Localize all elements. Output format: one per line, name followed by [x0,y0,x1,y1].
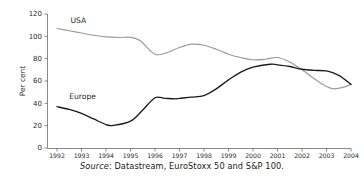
y-tick-label-40: 40 [33,100,42,108]
x-tick-label-1996: 1996 [147,152,163,159]
y-tick-label-120: 120 [29,10,42,18]
y-tick-label-100: 100 [29,33,42,41]
source-text: : Datastream, EuroStoxx 50 and S&P 100. [109,161,284,171]
x-tick-label-1997: 1997 [172,152,188,159]
x-tick-label-2000: 2000 [245,152,261,159]
y-tick-label-20: 20 [33,122,42,130]
x-tick-label-1993: 1993 [74,152,90,159]
y-tick-label-60: 60 [33,77,42,85]
x-tick-label-2002: 2002 [294,152,310,159]
y-tick-label-80: 80 [33,55,42,63]
series-label-europe: Europe [69,92,96,101]
x-tick-label-1994: 1994 [98,152,114,159]
y-tick-label-0: 0 [38,144,42,152]
y-axis: 0 20 40 60 80 100 120 Per cent [18,10,48,152]
x-axis: 1992 1993 1994 1995 1996 1997 1998 1999 … [48,149,359,159]
chart-figure: 0 20 40 60 80 100 120 Per cent [0,0,364,183]
source-word: Source [80,161,109,171]
x-tick-label-2001: 2001 [270,152,286,159]
line-chart: 0 20 40 60 80 100 120 Per cent [0,0,364,183]
source-caption: Source: Datastream, EuroStoxx 50 and S&P… [0,161,364,171]
x-tick-label-1992: 1992 [49,152,65,159]
y-axis-title: Per cent [18,66,27,96]
series-label-usa: USA [70,16,87,25]
x-tick-label-2004: 2004 [343,152,359,159]
y-axis-ticks [45,14,48,148]
x-tick-label-1998: 1998 [196,152,212,159]
x-tick-label-1999: 1999 [221,152,237,159]
series-line-usa [57,29,351,89]
x-tick-label-1995: 1995 [123,152,139,159]
x-tick-label-2003: 2003 [319,152,335,159]
